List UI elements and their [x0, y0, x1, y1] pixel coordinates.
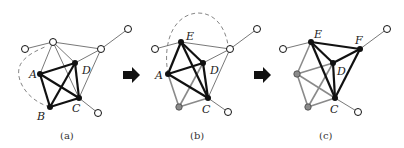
- label-E: E: [185, 30, 194, 43]
- label-D: D: [209, 64, 219, 77]
- label-C: C: [72, 102, 81, 115]
- hollow-node: [22, 46, 29, 53]
- hollow-node: [95, 110, 102, 117]
- label-D: D: [81, 64, 91, 77]
- node-A: [37, 71, 43, 77]
- label-A: A: [154, 69, 163, 82]
- label-B: B: [36, 110, 45, 123]
- caption-c: (c): [319, 130, 333, 141]
- node-B: [47, 104, 53, 110]
- hollow-node: [125, 26, 132, 33]
- label-C: C: [330, 103, 339, 116]
- label-E: E: [313, 28, 322, 41]
- right-arrow-icon: [254, 67, 271, 83]
- panel-b: E A D C (b): [152, 13, 261, 141]
- hollow-node: [50, 39, 57, 46]
- caption-b: (b): [190, 130, 204, 141]
- label-F: F: [354, 34, 363, 47]
- panel-c: E F D C (c): [280, 26, 391, 142]
- node-C: [76, 95, 82, 101]
- label-D: D: [336, 65, 346, 78]
- panel-a: A B C D (a): [19, 26, 132, 142]
- graph-transformation-diagram: A B C D (a): [0, 0, 404, 148]
- right-arrow-icon: [123, 67, 140, 83]
- node-D: [72, 60, 78, 66]
- hollow-node: [98, 46, 105, 53]
- label-C: C: [202, 103, 211, 116]
- caption-a: (a): [60, 130, 74, 141]
- label-A: A: [28, 68, 37, 81]
